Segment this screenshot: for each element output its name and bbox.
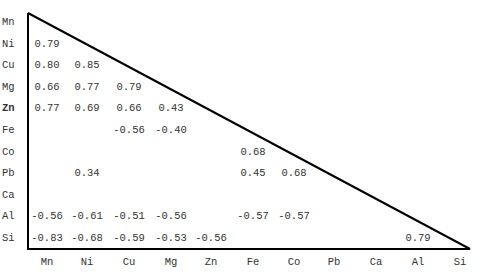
cell-al-fe: -0.57: [237, 210, 269, 222]
cell-mg-cu: 0.79: [116, 81, 141, 93]
row-label-cu: Cu: [2, 59, 26, 71]
cell-al-mn: -0.56: [31, 210, 63, 222]
column-label-mn: Mn: [41, 256, 54, 268]
row-label-fe: Fe: [2, 124, 26, 136]
cell-si-ni: -0.68: [71, 232, 103, 244]
cell-si-mn: -0.83: [31, 232, 63, 244]
cell-ni-mn: 0.79: [34, 38, 59, 50]
row-label-mg: Mg: [2, 81, 26, 93]
cell-fe-mg: -0.40: [155, 124, 187, 136]
cell-al-ni: -0.61: [71, 210, 103, 222]
row-label-zn: Zn: [2, 102, 26, 114]
column-label-fe: Fe: [247, 256, 260, 268]
row-label-co: Co: [2, 146, 26, 158]
row-label-ca: Ca: [2, 189, 26, 201]
cell-mg-ni: 0.77: [74, 81, 99, 93]
cell-al-co: -0.57: [278, 210, 310, 222]
column-label-al: Al: [412, 256, 425, 268]
column-label-ni: Ni: [81, 256, 94, 268]
column-label-pb: Pb: [328, 256, 341, 268]
column-label-ca: Ca: [370, 256, 383, 268]
cell-al-mg: -0.56: [155, 210, 187, 222]
cell-pb-ni: 0.34: [74, 167, 99, 179]
column-label-co: Co: [288, 256, 301, 268]
column-label-cu: Cu: [123, 256, 136, 268]
cell-cu-ni: 0.85: [74, 59, 99, 71]
row-label-mn: Mn: [2, 16, 26, 28]
column-label-mg: Mg: [165, 256, 178, 268]
cell-si-al: 0.79: [405, 232, 430, 244]
column-label-si: Si: [454, 256, 467, 268]
column-label-zn: Zn: [205, 256, 218, 268]
cell-si-zn: -0.56: [195, 232, 227, 244]
row-label-ni: Ni: [2, 38, 26, 50]
cell-si-cu: -0.59: [113, 232, 145, 244]
row-label-al: Al: [2, 210, 26, 222]
cell-zn-cu: 0.66: [116, 102, 141, 114]
row-label-si: Si: [2, 232, 26, 244]
cell-mg-mn: 0.66: [34, 81, 59, 93]
cell-zn-ni: 0.69: [74, 102, 99, 114]
cell-zn-mn: 0.77: [34, 102, 59, 114]
cell-cu-mn: 0.80: [34, 59, 59, 71]
row-label-pb: Pb: [2, 167, 26, 179]
correlation-matrix-chart: MnNiCuMgZnFeCoPbCaAlSi MnNiCuMgZnFeCoPbC…: [0, 0, 481, 276]
cell-si-mg: -0.53: [155, 232, 187, 244]
cell-fe-cu: -0.56: [113, 124, 145, 136]
cell-zn-mg: 0.43: [158, 102, 183, 114]
cell-co-fe: 0.68: [240, 146, 265, 158]
cell-pb-co: 0.68: [281, 167, 306, 179]
cell-al-cu: -0.51: [113, 210, 145, 222]
cell-pb-fe: 0.45: [240, 167, 265, 179]
